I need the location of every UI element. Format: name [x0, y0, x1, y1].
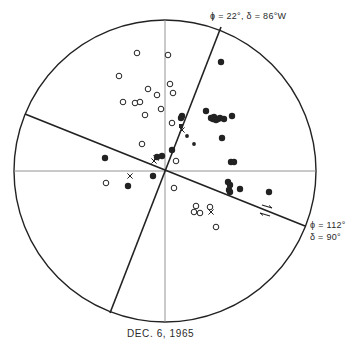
compression-point-small: [192, 142, 196, 146]
compression-point: [229, 113, 235, 119]
plane-1-label: ϕ = 22°, δ = 86°W: [210, 11, 286, 21]
compression-point: [150, 173, 156, 179]
compression-point: [203, 108, 209, 114]
dilatation-point: [137, 99, 143, 105]
dilatation-point: [170, 90, 176, 96]
stereonet-plot: [0, 0, 352, 347]
compression-point-small: [185, 134, 189, 138]
dilatation-point: [213, 224, 219, 230]
cross-marker: [208, 209, 213, 214]
dilatation-point: [171, 185, 177, 191]
dilatation-point: [154, 92, 160, 98]
compression-point: [218, 59, 224, 65]
compression-point: [221, 116, 227, 122]
compression-point: [169, 147, 175, 153]
compression-point: [219, 135, 225, 141]
dilatation-point: [158, 106, 164, 112]
compression-point: [227, 189, 233, 195]
dilatation-point: [142, 112, 148, 118]
dilatation-point: [191, 209, 197, 215]
compression-point: [231, 159, 237, 165]
figure-caption-date: DEC. 6, 1965: [127, 328, 194, 339]
dilatation-point: [167, 81, 173, 87]
square-marker: [179, 124, 183, 128]
plane-2-label-phi: ϕ = 112°: [310, 220, 346, 230]
dilatation-point: [139, 141, 145, 147]
dilatation-point: [103, 180, 109, 186]
cross-marker: [127, 173, 132, 178]
cross-marker: [151, 158, 156, 163]
dilatation-point: [134, 50, 140, 56]
compression-point: [266, 189, 272, 195]
dilatation-point: [197, 210, 203, 216]
compression-point: [102, 155, 108, 161]
compression-point: [125, 183, 131, 189]
dilatation-point: [173, 158, 179, 164]
dilatation-point: [120, 99, 126, 105]
dilatation-point: [169, 120, 175, 126]
compression-point: [237, 186, 243, 192]
dilatation-point: [207, 204, 213, 210]
dilatation-point: [193, 203, 199, 209]
compression-point: [178, 115, 184, 121]
plane-2-label-delta: δ = 90°: [310, 232, 341, 242]
dilatation-point: [165, 52, 171, 58]
dilatation-point: [145, 86, 151, 92]
focal-mechanism-diagram: ϕ = 22°, δ = 86°W ϕ = 112° δ = 90° DEC. …: [0, 0, 352, 347]
dilatation-point: [116, 73, 122, 79]
